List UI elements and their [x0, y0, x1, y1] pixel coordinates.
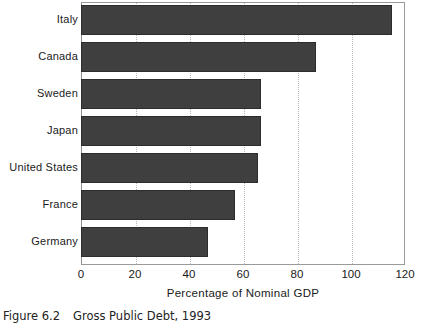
bar-canada: [81, 42, 316, 72]
x-tick-60: 60: [237, 268, 250, 280]
bar-fill: [81, 79, 261, 109]
bar-united-states: [81, 153, 258, 183]
bar-france: [81, 190, 235, 220]
bar-fill: [81, 153, 258, 183]
bar-fill: [81, 116, 261, 146]
bar-japan: [81, 116, 261, 146]
x-tick-120: 120: [395, 268, 414, 280]
bar-fill: [81, 227, 208, 257]
category-label-canada: Canada: [0, 50, 78, 62]
x-tick-20: 20: [129, 268, 142, 280]
x-tick-40: 40: [183, 268, 196, 280]
figure-container: ItalyCanadaSwedenJapanUnited StatesFranc…: [0, 0, 423, 329]
y-axis-category-labels: ItalyCanadaSwedenJapanUnited StatesFranc…: [0, 2, 78, 265]
figure-number: Figure 6.2: [3, 309, 60, 323]
x-tick-0: 0: [78, 268, 84, 280]
category-label-france: France: [0, 198, 78, 210]
x-tick-100: 100: [341, 268, 360, 280]
category-label-japan: Japan: [0, 124, 78, 136]
bar-germany: [81, 227, 208, 257]
figure-caption: Figure 6.2Gross Public Debt, 1993: [3, 309, 211, 323]
x-axis-title: Percentage of Nominal GDP: [81, 287, 405, 299]
category-label-united-states: United States: [0, 161, 78, 173]
bar-fill: [81, 190, 235, 220]
bar-fill: [81, 5, 392, 35]
bar-series: [81, 2, 405, 265]
category-label-sweden: Sweden: [0, 87, 78, 99]
bar-fill: [81, 42, 316, 72]
x-tick-80: 80: [291, 268, 304, 280]
x-axis-tick-labels: 020406080100120: [81, 268, 405, 284]
category-label-germany: Germany: [0, 235, 78, 247]
bar-sweden: [81, 79, 261, 109]
category-label-italy: Italy: [0, 13, 78, 25]
figure-title: Gross Public Debt, 1993: [73, 309, 211, 323]
bar-italy: [81, 5, 392, 35]
